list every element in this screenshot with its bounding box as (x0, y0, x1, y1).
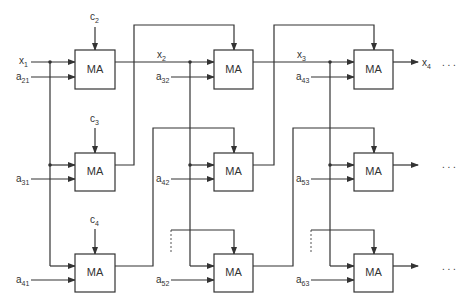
label-a21: a21 (16, 71, 29, 84)
label-a41: a41 (16, 274, 29, 287)
svg-text:MA: MA (225, 165, 242, 177)
svg-text:MA: MA (87, 266, 104, 278)
ellipsis-row3: . . . (442, 261, 456, 272)
svg-text:MA: MA (87, 63, 104, 75)
label-c3: c3 (90, 113, 99, 126)
label-a52: a52 (156, 274, 169, 287)
svg-text:MA: MA (225, 63, 242, 75)
svg-text:MA: MA (365, 165, 382, 177)
label-c4: c4 (90, 214, 99, 227)
label-a53: a53 (296, 173, 309, 186)
label-a63: a63 (296, 274, 309, 287)
ellipsis-row1: . . . (442, 57, 456, 68)
label-a42: a42 (156, 173, 169, 186)
label-x3: x3 (297, 49, 306, 62)
label-x4: x4 (422, 57, 431, 70)
label-x2: x2 (157, 49, 166, 62)
ma-cell-r1c1: MA (75, 50, 115, 89)
ma-cell-r3c1: MA (75, 254, 115, 292)
label-x1: x1 (19, 55, 28, 68)
ma-cell-r1c2: MA (214, 50, 253, 89)
ma-cell-r3c2: MA (214, 254, 253, 292)
svg-text:MA: MA (365, 63, 382, 75)
systolic-array-diagram: MA MA MA MA MA MA MA MA MA c2 c3 c4 x1 x… (0, 0, 474, 308)
ma-cell-r2c2: MA (214, 153, 253, 191)
ellipsis-row2: . . . (442, 159, 456, 170)
label-a31: a31 (16, 173, 29, 186)
ma-cell-r2c1: MA (75, 153, 115, 191)
ma-cell-r1c3: MA (354, 50, 393, 89)
label-a32: a32 (156, 71, 169, 84)
ma-cell-r2c3: MA (354, 153, 393, 191)
svg-text:MA: MA (365, 266, 382, 278)
label-c2: c2 (90, 11, 99, 24)
svg-text:MA: MA (225, 266, 242, 278)
ma-cell-r3c3: MA (354, 254, 393, 292)
svg-text:MA: MA (87, 165, 104, 177)
label-a43: a43 (296, 71, 309, 84)
